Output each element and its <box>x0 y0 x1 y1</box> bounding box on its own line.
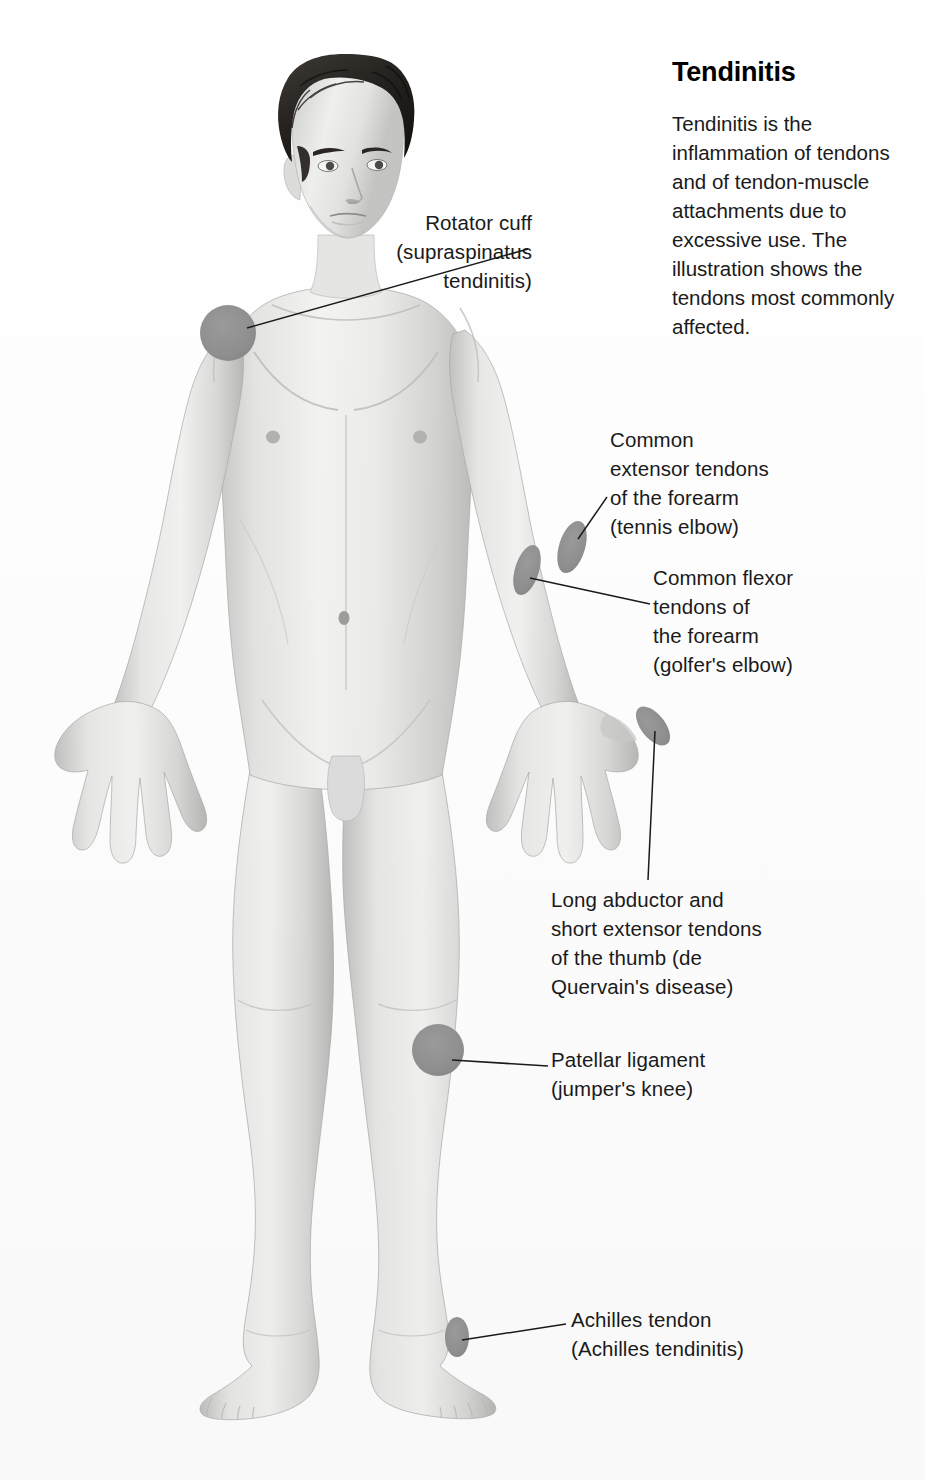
left-hand <box>55 701 207 863</box>
page-title: Tendinitis <box>672 56 924 88</box>
genitalia <box>328 756 365 821</box>
shoulder-marker <box>200 305 256 361</box>
header-block: Tendinitis Tendinitis is the inflammatio… <box>672 56 924 361</box>
right-leg <box>343 772 496 1419</box>
right-hand <box>486 701 638 863</box>
callout-common-flexor-tendons: Common flexor tendons of the forearm (go… <box>653 563 893 679</box>
right-iris <box>375 161 383 169</box>
knee-marker <box>412 1024 464 1076</box>
leader-achilles <box>462 1324 566 1340</box>
left-nipple <box>266 431 280 444</box>
intro-paragraph: Tendinitis is the inflammation of tendon… <box>672 109 924 341</box>
callout-thumb-tendons: Long abductor and short extensor tendons… <box>551 885 821 1001</box>
right-nipple <box>413 431 427 444</box>
left-iris <box>326 162 334 170</box>
leader-thumb <box>648 731 655 880</box>
leader-extensor <box>578 497 607 539</box>
navel <box>339 611 350 625</box>
callout-common-extensor-tendons: Common extensor tendons of the forearm (… <box>610 425 850 541</box>
left-leg <box>200 770 334 1420</box>
achilles-marker <box>445 1317 469 1357</box>
callout-achilles-tendon: Achilles tendon (Achilles tendinitis) <box>571 1305 851 1363</box>
callout-rotator-cuff: Rotator cuff (supraspinatus tendinitis) <box>332 208 532 295</box>
leader-patellar <box>452 1060 548 1066</box>
callout-patellar-ligament: Patellar ligament (jumper's knee) <box>551 1045 821 1103</box>
thumb-marker <box>629 700 676 751</box>
